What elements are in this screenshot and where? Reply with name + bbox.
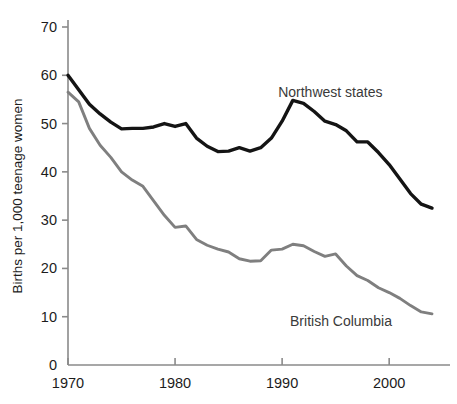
y-tick-label: 0 [49, 357, 57, 373]
x-tick-label: 1990 [266, 375, 298, 391]
y-tick-label: 30 [41, 212, 57, 228]
x-tick-label: 1970 [52, 375, 84, 391]
y-tick-label: 60 [41, 67, 57, 83]
y-tick-label: 20 [41, 260, 57, 276]
series-label-british-columbia: British Columbia [290, 313, 392, 329]
y-axis-title-text: Births per 1,000 teenage women [10, 98, 25, 293]
y-tick-label: 70 [41, 19, 57, 35]
line-chart: 010203040506070 1970198019902000 Northwe… [0, 0, 457, 404]
y-tick-label: 10 [41, 309, 57, 325]
y-tick-label: 50 [41, 116, 57, 132]
y-axis-title: Births per 1,000 teenage women [10, 98, 25, 293]
x-tick-label: 1980 [159, 375, 191, 391]
chart-canvas: 010203040506070 1970198019902000 Northwe… [0, 0, 457, 404]
series-label-northwest-states: Northwest states [278, 84, 382, 100]
x-tick-label: 2000 [373, 375, 405, 391]
y-tick-label: 40 [41, 164, 57, 180]
